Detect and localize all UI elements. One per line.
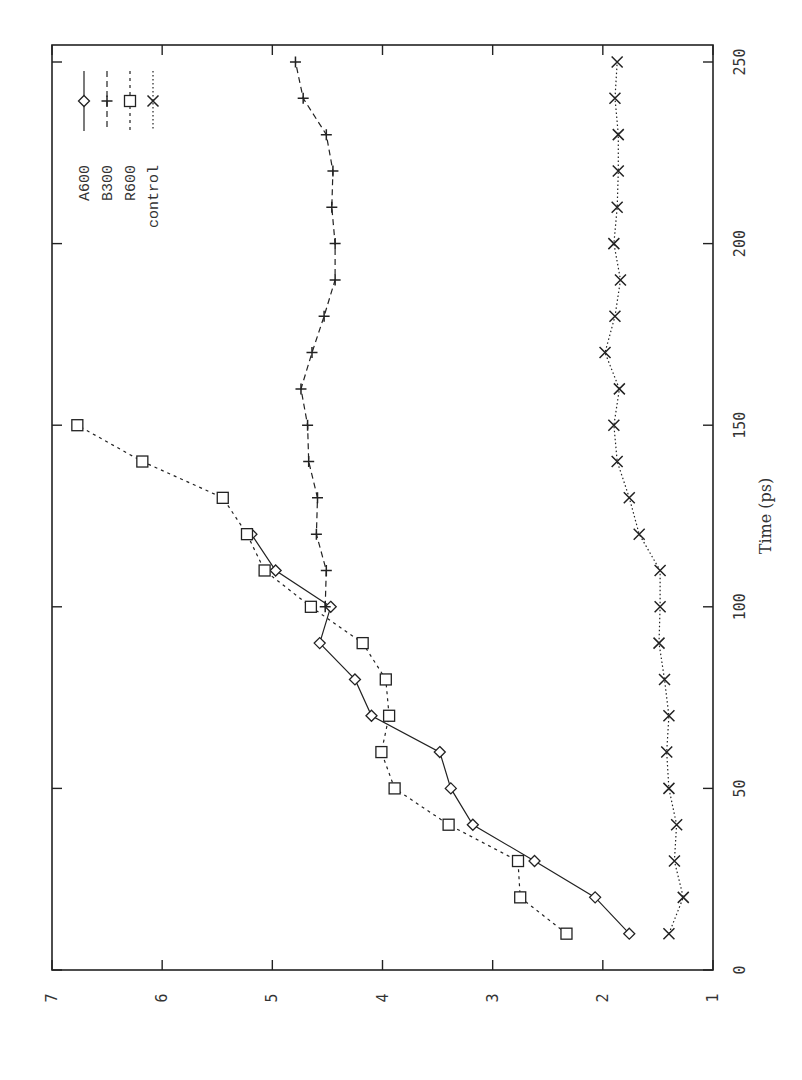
legend-label: A600	[77, 165, 94, 201]
legend-item: A600	[77, 71, 94, 201]
series-b300	[290, 57, 341, 613]
x-tick-label: 250	[731, 48, 749, 75]
plus-marker	[312, 492, 323, 503]
cross-marker	[663, 783, 674, 794]
plus-marker	[319, 311, 330, 322]
plus-marker	[311, 529, 322, 540]
data-series	[72, 57, 689, 940]
cross-marker	[624, 492, 635, 503]
diamond-marker	[270, 565, 281, 576]
cross-marker	[600, 347, 611, 358]
cross-marker	[614, 383, 625, 394]
square-marker	[357, 638, 368, 649]
legend-item: R600	[123, 71, 140, 201]
cross-marker	[613, 165, 624, 176]
x-tick-label: 100	[731, 593, 749, 620]
cross-marker	[608, 238, 619, 249]
series-control	[600, 57, 689, 940]
cross-marker	[609, 311, 620, 322]
plus-marker	[295, 383, 306, 394]
cross-marker	[612, 202, 623, 213]
cross-marker	[634, 529, 645, 540]
series-line	[605, 62, 683, 934]
square-marker	[241, 529, 252, 540]
plus-marker	[321, 565, 332, 576]
y-tick-label: 3	[484, 993, 502, 1002]
plus-marker	[330, 238, 341, 249]
plus-marker	[306, 347, 317, 358]
cross-marker	[609, 93, 620, 104]
diamond-marker	[79, 96, 90, 107]
x-tick-label: 50	[731, 779, 749, 797]
y-tick-label: 1	[704, 993, 722, 1002]
square-marker	[561, 928, 572, 939]
cross-marker	[678, 892, 689, 903]
legend-label: R600	[123, 165, 140, 201]
plus-marker	[326, 202, 337, 213]
legend: A600B300R600control	[77, 71, 163, 228]
square-marker	[217, 492, 228, 503]
y-tick-label: 5	[263, 993, 281, 1002]
plus-marker	[327, 165, 338, 176]
cross-marker	[608, 420, 619, 431]
cross-marker	[613, 129, 624, 140]
y-tick-label: 4	[374, 993, 392, 1002]
plus-marker	[302, 420, 313, 431]
square-marker	[389, 783, 400, 794]
square-marker	[137, 456, 148, 467]
square-marker	[380, 674, 391, 685]
plus-marker	[102, 96, 113, 107]
x-axis-title: Time (ps)	[756, 478, 775, 554]
square-marker	[515, 892, 526, 903]
x-tick-label: 200	[731, 230, 749, 257]
square-marker	[259, 565, 270, 576]
legend-item: B300	[100, 71, 117, 201]
series-a600	[246, 529, 635, 940]
diamond-marker	[434, 747, 445, 758]
square-marker	[384, 710, 395, 721]
cross-marker	[663, 928, 674, 939]
diamond-marker	[445, 783, 456, 794]
square-marker	[305, 601, 316, 612]
cross-marker	[612, 456, 623, 467]
cross-marker	[661, 747, 672, 758]
plus-marker	[321, 129, 332, 140]
plus-marker	[303, 456, 314, 467]
y-tick-label: 6	[153, 993, 171, 1002]
cross-marker	[663, 710, 674, 721]
line-chart: 0501001502002501234567 A600B300R600contr…	[0, 0, 802, 1080]
square-marker	[443, 819, 454, 830]
legend-label: control	[146, 165, 163, 228]
x-tick-label: 150	[731, 412, 749, 439]
cross-marker	[659, 674, 670, 685]
diamond-marker	[529, 856, 540, 867]
square-marker	[376, 747, 387, 758]
x-tick-label: 0	[731, 965, 749, 974]
plus-marker	[298, 93, 309, 104]
series-line	[77, 425, 566, 934]
legend-item: control	[146, 71, 163, 228]
square-marker	[125, 96, 136, 107]
y-tick-label: 2	[594, 993, 612, 1002]
plus-marker	[290, 57, 301, 68]
series-line	[251, 534, 629, 934]
diamond-marker	[467, 819, 478, 830]
plus-marker	[330, 274, 341, 285]
diamond-marker	[366, 710, 377, 721]
square-marker	[72, 420, 83, 431]
y-tick-label: 7	[43, 993, 61, 1002]
square-marker	[513, 856, 524, 867]
series-line	[296, 62, 336, 607]
cross-marker	[148, 96, 159, 107]
legend-label: B300	[100, 165, 117, 201]
